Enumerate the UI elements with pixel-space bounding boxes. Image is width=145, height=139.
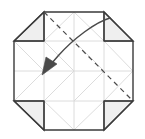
origami-figure: Origami diagram: square with four corner… xyxy=(0,0,145,139)
origami-diagram-container: Origami diagram: square with four corner… xyxy=(0,0,145,139)
